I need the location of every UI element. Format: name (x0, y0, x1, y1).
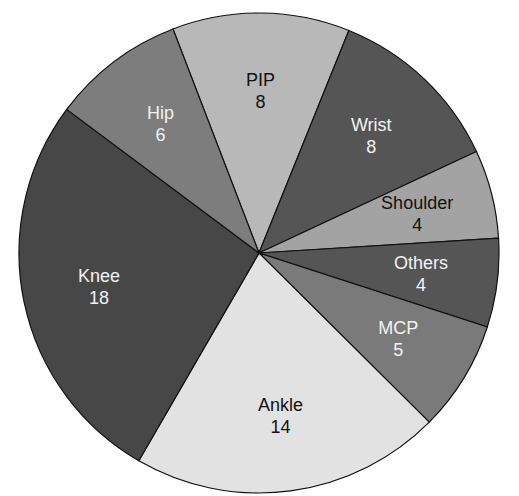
slice-value-ankle: 14 (270, 417, 290, 437)
slice-value-shoulder: 4 (412, 215, 422, 235)
slice-label-wrist: Wrist (351, 115, 392, 135)
slice-label-knee: Knee (78, 266, 120, 286)
slice-value-knee: 18 (89, 288, 109, 308)
slice-value-mcp: 5 (393, 340, 403, 360)
slice-label-shoulder: Shoulder (381, 193, 453, 213)
pie-chart: PIP8Wrist8Shoulder4Others4MCP5Ankle14Kne… (0, 0, 519, 496)
slice-label-hip: Hip (147, 103, 174, 123)
slice-value-hip: 6 (156, 125, 166, 145)
slice-label-others: Others (394, 253, 448, 273)
slice-value-others: 4 (416, 275, 426, 295)
slice-label-ankle: Ankle (258, 395, 303, 415)
slice-label-pip: PIP (246, 70, 275, 90)
slice-label-mcp: MCP (378, 318, 418, 338)
slice-value-pip: 8 (255, 92, 265, 112)
slice-value-wrist: 8 (366, 137, 376, 157)
